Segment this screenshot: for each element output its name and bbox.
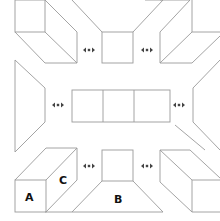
middle-strip (72, 90, 170, 122)
face-label-c: C (59, 174, 67, 187)
double-arrow-icon (141, 48, 153, 53)
top-right-box (145, 0, 220, 63)
double-arrow-icon (141, 164, 153, 169)
double-arrow-icon (83, 48, 95, 53)
top-center-view (72, 0, 163, 63)
double-arrow-icon (83, 164, 95, 169)
double-arrow-icon (52, 103, 64, 108)
double-arrow-icon (173, 103, 185, 108)
box-net-diagram: A C B (0, 0, 220, 221)
face-label-a: A (25, 191, 34, 204)
middle-right-view (193, 60, 220, 150)
bottom-right-box (160, 125, 220, 212)
face-label-b: B (114, 193, 122, 206)
top-left-box (15, 0, 77, 63)
middle-left-view (15, 60, 45, 152)
